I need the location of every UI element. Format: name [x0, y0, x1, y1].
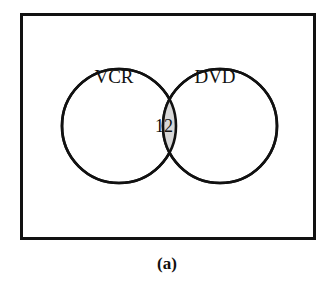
- venn-diagram-figure: VCR DVD 12 (a): [0, 0, 334, 286]
- intersection-count-label: 12: [155, 116, 173, 136]
- figure-caption: (a): [157, 254, 177, 273]
- set-label-dvd: DVD: [194, 66, 235, 87]
- set-label-vcr: VCR: [94, 66, 133, 87]
- venn-diagram-canvas: VCR DVD 12 (a): [0, 0, 334, 286]
